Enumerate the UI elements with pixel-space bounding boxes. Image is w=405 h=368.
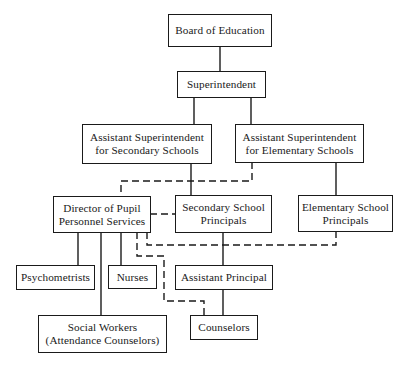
dashed-link-director-elementary-principals — [147, 231, 336, 245]
dashed-link-asst-elementary-director — [121, 162, 252, 196]
node-counselors: Counselors — [190, 315, 258, 340]
node-secondary-school-principals: Secondary School Principals — [175, 195, 272, 233]
node-nurses: Nurses — [108, 265, 157, 289]
node-elementary-school-principals: Elementary School Principals — [298, 195, 393, 232]
node-assistant-principal: Assistant Principal — [175, 265, 273, 290]
node-superintendent: Superintendent — [177, 71, 266, 98]
node-social-workers: Social Workers (Attendance Counselors) — [38, 315, 167, 353]
org-chart: Board of Education Superintendent Assist… — [0, 0, 405, 368]
node-board-of-education: Board of Education — [168, 14, 272, 47]
node-asst-superintendent-secondary: Assistant Superintendent for Secondary S… — [82, 124, 212, 164]
node-asst-superintendent-elementary: Assistant Superintendent for Elementary … — [235, 124, 364, 163]
node-director-pupil-personnel: Director of Pupil Personnel Services — [53, 196, 151, 233]
node-psychometrists: Psychometrists — [16, 265, 95, 290]
connector-lines — [0, 0, 405, 368]
